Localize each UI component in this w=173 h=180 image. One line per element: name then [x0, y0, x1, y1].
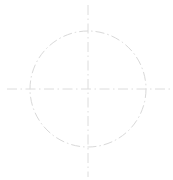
- centerline-circle-figure: [0, 0, 173, 180]
- diagram-canvas: [0, 0, 173, 180]
- canvas-background: [0, 0, 173, 180]
